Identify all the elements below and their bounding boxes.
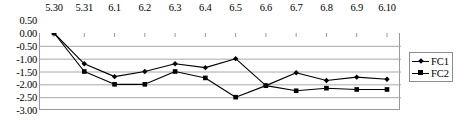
x-tick-label: 6.5: [229, 2, 242, 13]
x-tick-label: 6.10: [378, 2, 396, 13]
legend-label: FC1: [429, 56, 449, 67]
data-point-fc2: [233, 95, 238, 100]
x-axis-labels: 5.305.316.16.26.36.46.56.66.76.86.96.10: [40, 2, 400, 18]
data-point-fc1: [293, 70, 298, 75]
data-point-fc2: [203, 76, 208, 81]
legend-item-fc1[interactable]: FC1: [412, 55, 449, 67]
data-point-fc1: [203, 65, 208, 70]
x-tick-label: 6.7: [290, 2, 303, 13]
data-point-fc2: [173, 69, 178, 74]
square-marker-icon: [412, 68, 429, 78]
data-point-fc2: [324, 86, 329, 91]
data-point-fc1: [384, 77, 389, 82]
data-point-fc1: [112, 74, 117, 79]
chart-legend: FC1FC2: [409, 52, 453, 82]
x-tick-label: 6.9: [350, 2, 363, 13]
data-point-fc1: [142, 69, 147, 74]
data-point-fc2: [82, 69, 87, 74]
data-point-fc2: [112, 82, 117, 87]
x-tick-label: 6.6: [260, 2, 273, 13]
x-tick-label: 5.30: [45, 2, 63, 13]
data-point-fc2: [264, 83, 269, 88]
legend-label: FC2: [429, 68, 449, 79]
y-axis-labels: 0.500.00-0.50-1.00-1.50-2.00-2.50-3.00: [0, 18, 38, 112]
data-point-fc1: [172, 61, 177, 66]
data-point-fc2: [294, 88, 299, 93]
plot-area: [39, 33, 400, 110]
data-point-fc1: [354, 74, 359, 79]
x-tick-label: 6.4: [199, 2, 212, 13]
legend-item-fc2[interactable]: FC2: [412, 67, 449, 79]
x-tick-label: 5.31: [75, 2, 93, 13]
data-point-fc2: [354, 87, 359, 92]
diamond-marker-icon: [412, 56, 429, 66]
x-tick-label: 6.1: [108, 2, 121, 13]
y-tick-label: -3.00: [16, 105, 37, 116]
series-line-fc2: [54, 33, 387, 97]
y-tick-label: 0.00: [19, 28, 37, 39]
plot-svg: [40, 33, 401, 110]
x-tick-label: 6.2: [139, 2, 152, 13]
y-tick-label: -1.00: [16, 53, 37, 64]
line-chart: 5.305.316.16.26.36.46.56.66.76.86.96.10 …: [0, 0, 464, 120]
y-tick-label: 0.50: [19, 15, 37, 26]
y-tick-label: -2.50: [16, 92, 37, 103]
data-point-fc2: [385, 87, 390, 92]
data-point-fc2: [52, 33, 57, 35]
x-tick-label: 6.8: [320, 2, 333, 13]
y-tick-label: -1.50: [16, 66, 37, 77]
y-tick-label: -2.00: [16, 79, 37, 90]
data-point-fc2: [143, 82, 148, 87]
x-tick-label: 6.3: [169, 2, 182, 13]
data-point-fc1: [324, 78, 329, 83]
y-tick-label: -0.50: [16, 40, 37, 51]
